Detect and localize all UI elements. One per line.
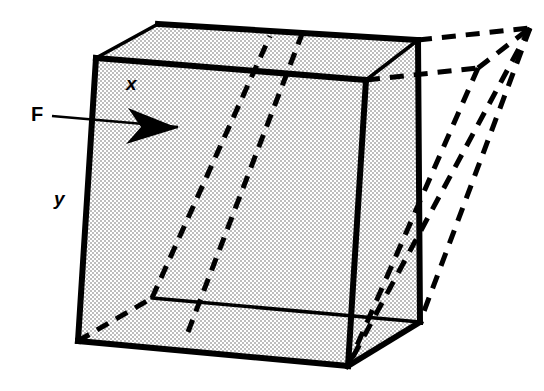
y-axis-label: y	[54, 189, 65, 208]
edge-back-right-vertical	[418, 40, 420, 322]
shear-deformation-figure: F x y	[0, 0, 544, 391]
x-axis-label: x	[126, 74, 137, 93]
force-label: F	[31, 104, 43, 124]
deformed-top-back-edge	[418, 28, 530, 40]
cube-shear-diagram	[0, 0, 544, 391]
cube-front-face	[78, 58, 366, 366]
deformed-top-side-edge	[478, 28, 530, 68]
